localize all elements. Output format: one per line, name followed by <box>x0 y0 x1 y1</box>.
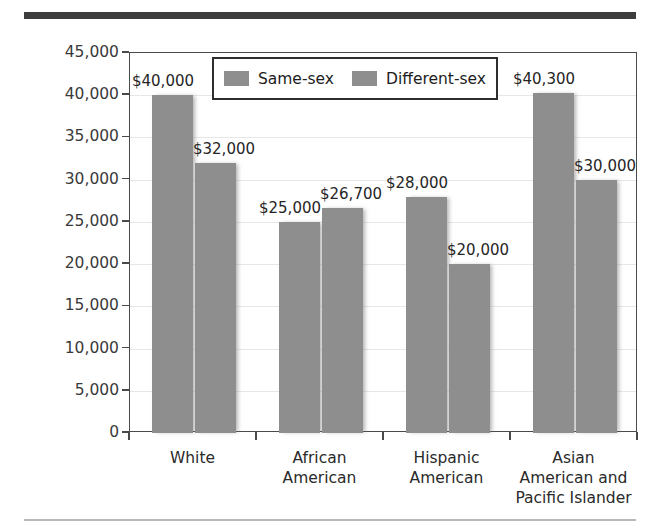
x-tick-mark <box>636 432 638 440</box>
bar <box>279 222 320 433</box>
y-tick-mark <box>122 93 129 95</box>
x-tick-mark <box>128 432 130 440</box>
bar-value-label: $40,300 <box>513 70 575 88</box>
y-tick-mark <box>122 51 129 53</box>
y-tick-mark <box>122 136 129 138</box>
bottom-decorative-rule <box>24 519 636 521</box>
bar <box>322 208 363 433</box>
bar-chart: Median Income in Dollars 45,00040,00035,… <box>0 0 659 531</box>
y-tick-label: 15,000 <box>0 296 119 314</box>
legend-label: Same-sex <box>258 70 334 88</box>
x-category-label-line: Asian <box>515 448 631 468</box>
x-category-label-line: Hispanic <box>410 448 484 468</box>
legend-entry-same-sex: Same-sex <box>224 70 334 88</box>
legend-label: Different-sex <box>386 70 486 88</box>
y-tick-label: 45,000 <box>0 43 119 61</box>
y-tick-mark <box>122 305 129 307</box>
y-tick-label: 20,000 <box>0 254 119 272</box>
x-category-label-line: American <box>410 468 484 488</box>
x-category-label-line: White <box>170 448 215 468</box>
y-tick-label: 40,000 <box>0 85 119 103</box>
y-tick-mark <box>122 389 129 391</box>
x-category-label-line: American and <box>515 468 631 488</box>
legend-swatch-icon <box>224 71 249 86</box>
bar <box>533 93 574 433</box>
bar-value-label: $32,000 <box>193 140 255 158</box>
bar-value-label: $28,000 <box>386 174 448 192</box>
legend-swatch-icon <box>352 71 377 86</box>
x-category-label: HispanicAmerican <box>410 448 484 488</box>
x-tick-mark <box>255 432 257 440</box>
y-tick-label: 35,000 <box>0 127 119 145</box>
bar <box>406 197 447 433</box>
bar-value-label: $40,000 <box>132 72 194 90</box>
x-category-label: AsianAmerican andPacific Islander <box>515 448 631 508</box>
y-tick-label: 0 <box>0 423 119 441</box>
x-category-label-line: African <box>283 448 357 468</box>
x-category-label: AfricanAmerican <box>283 448 357 488</box>
bar <box>449 264 490 433</box>
plot-frame <box>129 52 637 432</box>
x-tick-mark <box>382 432 384 440</box>
bar-value-label: $30,000 <box>574 157 636 175</box>
x-category-label-line: American <box>283 468 357 488</box>
x-category-label-line: Pacific Islander <box>515 488 631 508</box>
legend-entry-different-sex: Different-sex <box>352 70 486 88</box>
x-category-label: White <box>170 448 215 468</box>
bar-value-label: $25,000 <box>259 199 321 217</box>
y-tick-mark <box>122 178 129 180</box>
bar-value-label: $26,700 <box>320 185 382 203</box>
y-tick-label: 5,000 <box>0 381 119 399</box>
chart-legend: Same-sex Different-sex <box>212 57 498 100</box>
bar-value-label: $20,000 <box>447 241 509 259</box>
y-tick-label: 30,000 <box>0 170 119 188</box>
bar <box>152 95 193 433</box>
bar <box>195 163 236 433</box>
y-tick-label: 10,000 <box>0 339 119 357</box>
y-tick-label: 25,000 <box>0 212 119 230</box>
x-tick-mark <box>509 432 511 440</box>
y-tick-mark <box>122 347 129 349</box>
y-tick-mark <box>122 220 129 222</box>
y-tick-mark <box>122 262 129 264</box>
bar <box>576 180 617 433</box>
